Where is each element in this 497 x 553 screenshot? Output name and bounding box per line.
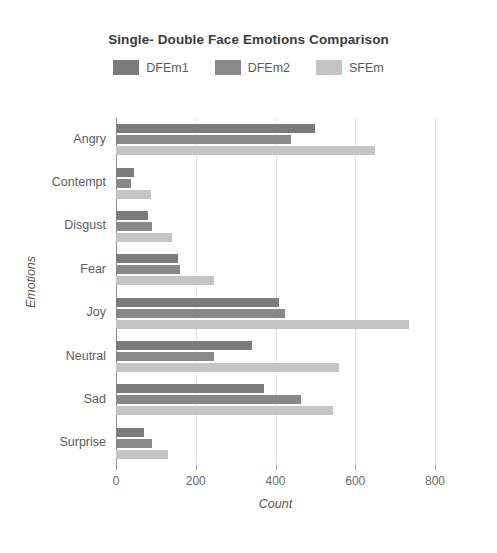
bar-dfem2-contempt bbox=[116, 179, 131, 188]
legend-item-dfem2: DFEm2 bbox=[215, 60, 290, 75]
x-axis-tick-label: 800 bbox=[425, 474, 445, 488]
y-axis-title: Emotions bbox=[24, 237, 38, 327]
chart-category-row bbox=[116, 205, 435, 248]
bar-dfem2-surprise bbox=[116, 439, 152, 448]
legend-swatch-sfem bbox=[316, 60, 342, 75]
x-axis-tick bbox=[435, 465, 436, 470]
bar-sfem-sad bbox=[116, 406, 333, 415]
x-axis-tick bbox=[355, 465, 356, 470]
bar-dfem2-sad bbox=[116, 395, 301, 404]
bar-sfem-disgust bbox=[116, 233, 172, 242]
bar-dfem2-neutral bbox=[116, 352, 214, 361]
gridline bbox=[435, 118, 436, 465]
chart-category-row bbox=[116, 378, 435, 421]
y-axis-label-disgust: Disgust bbox=[6, 218, 106, 232]
chart-category-row bbox=[116, 161, 435, 204]
chart-category-row bbox=[116, 335, 435, 378]
legend-swatch-dfem1 bbox=[113, 60, 139, 75]
bar-sfem-contempt bbox=[116, 190, 151, 199]
y-axis-label-sad: Sad bbox=[6, 392, 106, 406]
chart-title: Single- Double Face Emotions Comparison bbox=[0, 32, 497, 47]
legend-item-dfem1: DFEm1 bbox=[113, 60, 188, 75]
x-axis-tick-label: 200 bbox=[186, 474, 206, 488]
bar-dfem2-fear bbox=[116, 265, 180, 274]
y-axis-label-neutral: Neutral bbox=[6, 349, 106, 363]
chart-legend: DFEm1 DFEm2 SFEm bbox=[0, 60, 497, 75]
chart-category-row bbox=[116, 118, 435, 161]
bar-dfem1-neutral bbox=[116, 341, 252, 350]
bar-sfem-joy bbox=[116, 320, 409, 329]
bar-dfem1-sad bbox=[116, 384, 264, 393]
y-axis-label-contempt: Contempt bbox=[6, 175, 106, 189]
x-axis-tick-label: 600 bbox=[345, 474, 365, 488]
bar-sfem-neutral bbox=[116, 363, 339, 372]
x-axis-tick bbox=[276, 465, 277, 470]
chart-category-row bbox=[116, 422, 435, 465]
bar-sfem-angry bbox=[116, 146, 375, 155]
legend-label-dfem2: DFEm2 bbox=[248, 61, 290, 75]
bar-dfem1-disgust bbox=[116, 211, 148, 220]
y-axis-label-surprise: Surprise bbox=[6, 435, 106, 449]
bar-dfem1-contempt bbox=[116, 168, 134, 177]
x-axis-tick bbox=[196, 465, 197, 470]
legend-label-dfem1: DFEm1 bbox=[146, 61, 188, 75]
chart-category-row bbox=[116, 248, 435, 291]
bar-dfem2-angry bbox=[116, 135, 291, 144]
x-axis-tick-label: 0 bbox=[113, 474, 120, 488]
bar-dfem1-joy bbox=[116, 298, 279, 307]
legend-item-sfem: SFEm bbox=[316, 60, 384, 75]
x-axis-title: Count bbox=[116, 497, 435, 511]
bar-dfem1-fear bbox=[116, 254, 178, 263]
chart-container: Single- Double Face Emotions Comparison … bbox=[0, 0, 497, 553]
y-axis-label-angry: Angry bbox=[6, 132, 106, 146]
bar-dfem1-angry bbox=[116, 124, 315, 133]
bar-dfem2-joy bbox=[116, 309, 285, 318]
legend-label-sfem: SFEm bbox=[349, 61, 384, 75]
plot-area: 0200400600800AngryContemptDisgustFearJoy… bbox=[116, 118, 435, 465]
bar-dfem2-disgust bbox=[116, 222, 152, 231]
chart-category-row bbox=[116, 292, 435, 335]
bar-sfem-fear bbox=[116, 276, 214, 285]
x-axis-tick-label: 400 bbox=[265, 474, 285, 488]
legend-swatch-dfem2 bbox=[215, 60, 241, 75]
y-axis-label-fear: Fear bbox=[6, 262, 106, 276]
y-axis-label-joy: Joy bbox=[6, 305, 106, 319]
bar-dfem1-surprise bbox=[116, 428, 144, 437]
x-axis-tick bbox=[116, 465, 117, 470]
bar-sfem-surprise bbox=[116, 450, 168, 459]
